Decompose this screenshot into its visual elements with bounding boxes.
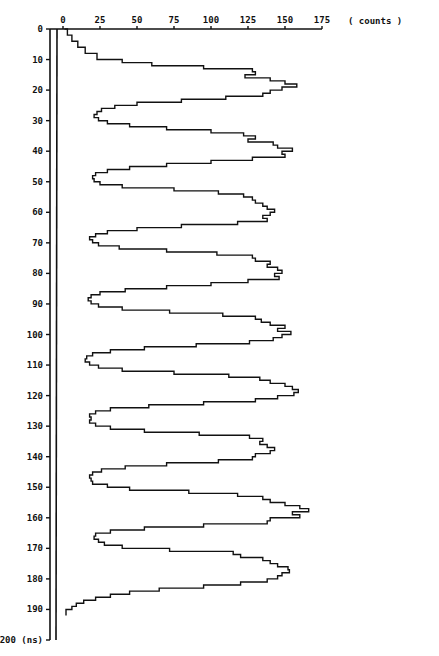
y-tick-label: 150	[27, 482, 43, 492]
x-tick-label: 50	[132, 15, 143, 25]
y-tick-label: 170	[27, 543, 43, 553]
y-axis: 0102030405060708090100110120130140150160…	[0, 24, 57, 645]
x-tick-label: 175	[314, 15, 330, 25]
y-tick-label: 130	[27, 421, 43, 431]
y-tick-label: 90	[32, 299, 43, 309]
y-tick-label: 20	[32, 85, 43, 95]
x-axis-unit-label: ( counts )	[348, 16, 402, 26]
y-tick-label: 200 (ns)	[0, 635, 43, 645]
y-tick-label: 70	[32, 238, 43, 248]
data-line	[65, 29, 309, 616]
y-tick-label: 40	[32, 146, 43, 156]
y-tick-label: 80	[32, 268, 43, 278]
histogram-chart: 0255075100125150175 01020304050607080901…	[0, 0, 439, 656]
y-axis-line-inner	[56, 29, 57, 640]
y-tick-label: 10	[32, 55, 43, 65]
y-tick-label: 140	[27, 452, 43, 462]
x-tick-label: 100	[203, 15, 219, 25]
y-tick-label: 120	[27, 391, 43, 401]
y-tick-label: 190	[27, 604, 43, 614]
y-tick-label: 30	[32, 116, 43, 126]
y-tick-label: 60	[32, 207, 43, 217]
y-tick-label: 180	[27, 574, 43, 584]
x-tick-label: 75	[169, 15, 180, 25]
x-tick-label: 25	[95, 15, 106, 25]
x-axis: 0255075100125150175	[50, 15, 330, 29]
x-tick-label: 125	[240, 15, 256, 25]
y-tick-label: 160	[27, 513, 43, 523]
y-tick-label: 50	[32, 177, 43, 187]
y-tick-label: 0	[38, 24, 43, 34]
x-tick-label: 0	[60, 15, 65, 25]
x-tick-label: 150	[277, 15, 293, 25]
y-tick-label: 110	[27, 360, 43, 370]
y-tick-label: 100	[27, 330, 43, 340]
